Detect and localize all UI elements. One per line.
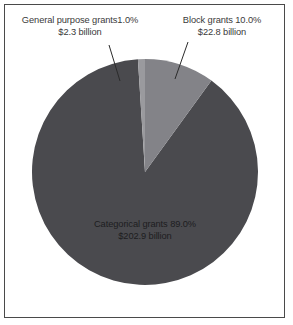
callout-block-line1: Block grants 10.0% (160, 15, 284, 27)
callout-general-purpose-line1: General purpose grants1.0% (6, 15, 154, 27)
slice-label-categorical-line1: Categorical grants 89.0% (45, 219, 245, 231)
callout-block-line2: $22.8 billion (160, 27, 284, 39)
callout-general-purpose-grants: General purpose grants1.0% $2.3 billion (6, 15, 154, 38)
pie-chart-figure: General purpose grants1.0% $2.3 billion … (0, 0, 293, 325)
slice-label-categorical-grants: Categorical grants 89.0% $202.9 billion (45, 219, 245, 242)
pie-chart-canvas (0, 0, 293, 325)
callout-block-grants: Block grants 10.0% $22.8 billion (160, 15, 284, 38)
callout-general-purpose-line2: $2.3 billion (6, 27, 154, 39)
slice-label-categorical-line2: $202.9 billion (45, 231, 245, 243)
